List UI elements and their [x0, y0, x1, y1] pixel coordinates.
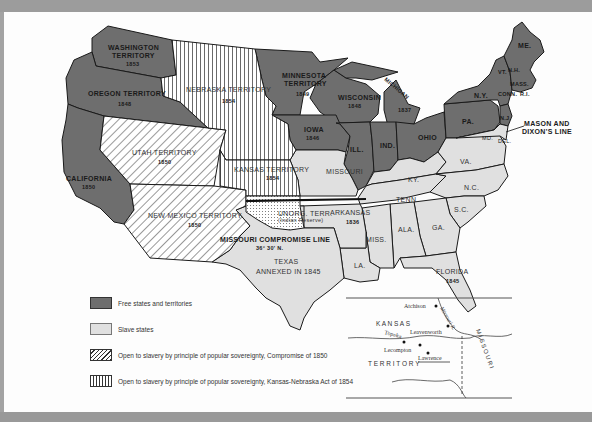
town-leavenworth: Leavenworth — [410, 329, 442, 335]
label-louisiana: LA. — [354, 262, 365, 269]
legend-label-kansas-nebraska: Open to slavery by principle of popular … — [118, 378, 353, 385]
town-topeka: Topeka — [384, 329, 403, 339]
label-minnesota-sub: TERRITORY — [284, 80, 327, 87]
label-utah-year: 1850 — [158, 159, 171, 165]
label-texas-sub: ANNEXED IN 1845 — [256, 268, 321, 275]
label-california-year: 1850 — [82, 184, 95, 190]
town-atchison: Atchison — [404, 303, 426, 309]
label-new-hampshire: N.H. — [508, 67, 520, 73]
swatch-free-icon — [90, 297, 112, 309]
label-new-mexico-year: 1850 — [188, 222, 201, 228]
label-kentucky: KY. — [408, 176, 419, 183]
inset-kansas-label: K A N S A S — [376, 320, 411, 327]
label-arkansas: ARKANSAS — [330, 209, 371, 216]
label-north-carolina: N.C. — [464, 184, 479, 191]
label-new-jersey: N.J. — [500, 115, 511, 121]
label-florida-year: 1845 — [446, 278, 459, 284]
label-oregon: OREGON TERRITORY — [88, 90, 166, 97]
label-wisconsin: WISCONSIN — [338, 94, 381, 101]
label-massachusetts: MASS. — [510, 81, 529, 87]
region-michigan-lower — [384, 80, 420, 126]
label-kansas-year: 1854 — [266, 175, 280, 181]
legend-label-slave: Slave states — [118, 326, 153, 333]
label-vermont: VT. — [498, 69, 507, 75]
label-tennessee: TENN. — [396, 196, 419, 203]
label-california: CALIFORNIA — [66, 175, 112, 182]
swatch-vertical-hatch-icon — [90, 375, 112, 387]
label-arkansas-year: 1836 — [346, 219, 359, 225]
label-new-mexico: NEW MEXICO TERRITORY — [148, 212, 242, 219]
inset-kansas-detail: Atchison Leavenworth Topeka Lecompton La… — [346, 298, 512, 398]
label-nebraska-year: 1854 — [222, 98, 236, 104]
label-new-york: N.Y. — [474, 92, 488, 99]
legend-label-compromise-1850: Open to slavery by principle of popular … — [118, 352, 327, 359]
label-mississippi: MISS. — [366, 236, 387, 243]
legend-label-free: Free states and territories — [118, 300, 192, 307]
label-pennsylvania: PA. — [462, 118, 474, 125]
label-south-carolina: S.C. — [454, 206, 469, 213]
label-missouri-compromise: MISSOURI COMPROMISE LINE — [220, 236, 330, 243]
town-lawrence: Lawrence — [418, 355, 442, 361]
label-kansas: KANSAS TERRITORY — [234, 166, 309, 173]
legend-item-kansas-nebraska: Open to slavery by principle of popular … — [90, 374, 353, 388]
label-virginia: VA. — [460, 158, 472, 165]
label-washington-year: 1853 — [126, 61, 139, 67]
label-wisconsin-year: 1848 — [348, 103, 361, 109]
label-texas: TEXAS — [274, 258, 298, 265]
label-ohio: OHIO — [418, 134, 437, 141]
label-rhode-island: R.I. — [520, 91, 530, 97]
label-washington-sub: TERRITORY — [112, 52, 155, 59]
label-washington: WASHINGTON — [108, 44, 159, 51]
label-unorganized: UNORG. TERR. — [278, 210, 332, 217]
label-maryland: MD. — [482, 135, 493, 141]
label-indiana: IND. — [380, 142, 395, 149]
town-lecompton: Lecompton — [384, 347, 411, 353]
label-nebraska: NEBRASKA TERRITORY — [186, 86, 271, 93]
legend-item-slave: Slave states — [90, 322, 353, 336]
legend-item-free: Free states and territories — [90, 296, 353, 310]
label-mason-dixon-2: DIXON'S LINE — [522, 128, 572, 135]
label-michigan-year: 1837 — [398, 107, 411, 113]
label-minnesota: MINNESOTA — [282, 72, 326, 79]
inset-missouri-label: M I S S O U R I — [475, 328, 495, 369]
label-missouri: MISSOURI — [326, 168, 363, 175]
label-minnesota-year: 1849 — [296, 91, 309, 97]
legend: Free states and territories Slave states… — [90, 296, 353, 400]
label-utah: UTAH TERRITORY — [132, 149, 197, 156]
label-missouri-compromise-lat: 36° 30' N. — [256, 245, 283, 251]
label-delaware: DEL. — [498, 138, 512, 144]
label-illinois: ILL. — [350, 146, 364, 153]
legend-item-compromise-1850: Open to slavery by principle of popular … — [90, 348, 353, 362]
label-oregon-year: 1848 — [118, 101, 131, 107]
label-florida: FLORIDA — [436, 268, 468, 275]
label-alabama: ALA. — [398, 226, 414, 233]
swatch-slave-icon — [90, 323, 112, 335]
inset-territory-label: T E R R I T O R Y — [368, 360, 420, 367]
label-mason-dixon-1: MASON AND — [524, 120, 570, 127]
label-maine: ME. — [518, 42, 531, 49]
label-iowa-year: 1846 — [306, 135, 319, 141]
swatch-diagonal-hatch-icon — [90, 349, 112, 361]
label-georgia: GA. — [432, 224, 445, 231]
label-iowa: IOWA — [304, 126, 324, 133]
label-unorganized-sub: (Indian Reserve) — [278, 217, 323, 223]
label-connecticut: CONN. — [498, 91, 517, 97]
